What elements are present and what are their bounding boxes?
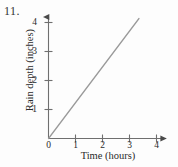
x-axis-title: Time (hours) — [48, 150, 168, 161]
x-tick-label-4: 4 — [150, 140, 164, 150]
data-line-rain-depth — [49, 19, 140, 139]
x-tick-label-0: 0 — [42, 140, 56, 150]
y-axis-title: Rain depth (inches) — [23, 5, 37, 135]
x-tick-label-3: 3 — [123, 140, 137, 150]
graph-figure: 11. 1 2 — [0, 0, 178, 167]
x-tick-label-1: 1 — [69, 140, 83, 150]
x-tick-label-2: 2 — [96, 140, 110, 150]
